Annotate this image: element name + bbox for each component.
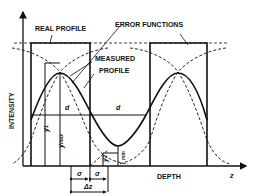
measured-label: MEASURED [95, 55, 135, 62]
sigma-left-label: σ [77, 170, 82, 177]
delta-z-label: Δz [84, 183, 92, 190]
depth-profile-diagram: REAL PROFILE ERROR FUNCTIONS MEASURED PR… [0, 0, 256, 196]
y1-label: y1 [34, 125, 52, 132]
sigma-right-label: σ [95, 170, 100, 177]
ymin-label: min [121, 151, 126, 160]
real-profile-label: REAL PROFILE [35, 25, 86, 32]
ymax-label: ymax [49, 134, 67, 148]
depth-axis-label: DEPTH [157, 173, 181, 180]
z-symbol: z [230, 172, 234, 179]
construction-lines [31, 63, 146, 166]
d-left-label: d [65, 104, 69, 111]
y2-label: y2 [93, 155, 111, 162]
intensity-axis-label: INTENSITY [8, 92, 15, 129]
error-functions-label: ERROR FUNCTIONS [115, 21, 183, 28]
profile-label: PROFILE [99, 67, 129, 74]
d-right-label: d [116, 104, 120, 111]
